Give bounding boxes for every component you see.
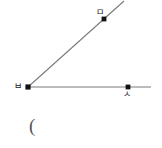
open-paren-annotation: ( [29,116,35,135]
upper-ray-line [28,1,124,87]
vertex-label: ㅂ [14,82,22,91]
figure-canvas: ㅁ ㅂ ㅅ ( [0,0,162,148]
angle-figure-svg [0,0,162,148]
upper-ray-point-label: ㅁ [96,8,104,17]
upper-ray-point [102,17,107,22]
vertex-point [25,84,30,89]
right-ray-point-label: ㅅ [123,90,131,99]
